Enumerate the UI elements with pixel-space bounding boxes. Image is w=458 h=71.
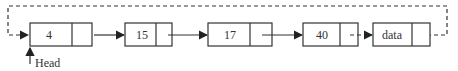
node-5: data [373, 23, 430, 46]
node-1-value: 4 [46, 28, 52, 42]
node-2-value: 15 [136, 28, 148, 42]
node-4-value: 40 [316, 28, 328, 42]
head-label: Head [35, 56, 60, 70]
node-2: 15 [125, 23, 172, 46]
node-3-value: 17 [224, 28, 236, 42]
node-4: 40 [303, 23, 358, 46]
linked-list-diagram: 4 15 17 40 data Head [0, 0, 458, 71]
node-5-value: data [382, 28, 403, 42]
node-1: 4 [30, 23, 92, 46]
